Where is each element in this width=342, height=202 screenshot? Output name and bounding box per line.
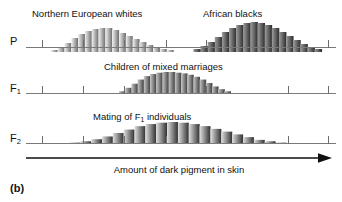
histogram-bar <box>178 123 189 144</box>
histogram-bar <box>272 28 279 52</box>
axis-tick <box>288 86 289 94</box>
axis-tick <box>206 136 207 144</box>
histogram-bar <box>175 73 182 94</box>
row-label-f2: F2 <box>10 133 21 146</box>
histogram-bar <box>169 72 176 94</box>
axis-line-f1 <box>26 93 336 94</box>
axis-tick <box>288 136 289 144</box>
histogram-bar <box>293 40 300 52</box>
histogram-bar <box>133 39 140 52</box>
row-label-f1: F1 <box>10 83 21 96</box>
histogram-bar <box>167 122 178 144</box>
row-label-f2-text: F <box>10 132 17 144</box>
histogram-bar <box>71 38 78 52</box>
histogram-bar <box>51 50 58 52</box>
histogram-bar <box>85 31 92 52</box>
axis-tick <box>166 136 167 144</box>
histogram-bar <box>279 32 286 52</box>
histogram-bar <box>92 29 99 52</box>
caption-african-blacks: African blacks <box>203 9 262 19</box>
histogram-series <box>69 122 286 144</box>
axis-tick <box>42 40 43 48</box>
axis-tick <box>328 86 329 94</box>
axis-tick <box>166 40 167 48</box>
axis-line-p <box>26 47 336 48</box>
histogram-bar <box>181 73 188 94</box>
histogram-bar <box>145 124 156 144</box>
histogram-bar <box>144 76 151 94</box>
panel-label: (b) <box>10 182 24 194</box>
histogram-bar <box>99 28 106 52</box>
histogram-bar <box>189 124 200 144</box>
caption-northern-european-whites: Northern European whites <box>32 9 142 19</box>
histogram-bar <box>119 33 126 52</box>
histogram-series <box>51 28 174 52</box>
row-label-p: P <box>10 36 17 47</box>
row-label-f2-subscript: 2 <box>17 137 21 146</box>
histogram-bar <box>160 49 167 52</box>
axis-tick <box>288 40 289 48</box>
axis-tick <box>42 136 43 144</box>
histogram-bar <box>222 32 229 52</box>
axis-tick <box>328 40 329 48</box>
histogram-bar <box>210 129 221 144</box>
histogram-bar <box>229 28 236 52</box>
histogram-bar <box>187 75 194 94</box>
axis-tick <box>124 136 125 144</box>
x-axis-title: Amount of dark pigment in skin <box>26 164 332 175</box>
distribution-plot-f1 <box>26 70 336 94</box>
histogram-bar <box>105 28 112 52</box>
axis-tick <box>124 86 125 94</box>
histogram-bar <box>126 36 133 52</box>
axis-tick <box>83 136 84 144</box>
histogram-bar <box>150 74 157 94</box>
axis-tick <box>328 136 329 144</box>
axis-tick <box>124 40 125 48</box>
histogram-bar <box>193 77 200 94</box>
histogram-bar <box>135 126 146 144</box>
histogram-bar <box>167 50 174 52</box>
axis-tick <box>83 86 84 94</box>
histogram-bar <box>215 37 222 52</box>
histogram-bar <box>300 44 307 52</box>
axis-tick <box>166 86 167 94</box>
axis-tick <box>42 86 43 94</box>
figure-panel: Northern European whites African blacks … <box>0 0 342 202</box>
axis-line-f2 <box>26 143 336 144</box>
axis-tick <box>83 40 84 48</box>
row-label-f1-subscript: 1 <box>17 87 21 96</box>
row-label-f1-text: F <box>10 82 17 94</box>
histogram-bar <box>124 130 135 144</box>
histogram-bar <box>315 49 322 52</box>
distribution-plot-f2 <box>26 120 336 144</box>
histogram-series <box>119 72 231 94</box>
row-label-p-text: P <box>10 35 17 47</box>
histogram-bar <box>138 80 145 94</box>
axis-tick <box>206 40 207 48</box>
histogram-bar <box>112 30 119 52</box>
axis-tick <box>206 86 207 94</box>
histogram-bar <box>193 49 200 52</box>
histogram-bar <box>156 73 163 94</box>
